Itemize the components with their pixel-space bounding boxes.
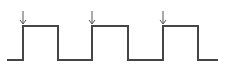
waveform-svg	[0, 0, 228, 76]
square-wave-diagram	[0, 0, 228, 76]
square-wave-line	[7, 26, 218, 60]
down-arrow-icon	[89, 11, 95, 24]
down-arrow-icon	[160, 11, 166, 24]
down-arrow-icon	[20, 11, 26, 24]
edge-markers	[20, 11, 166, 24]
